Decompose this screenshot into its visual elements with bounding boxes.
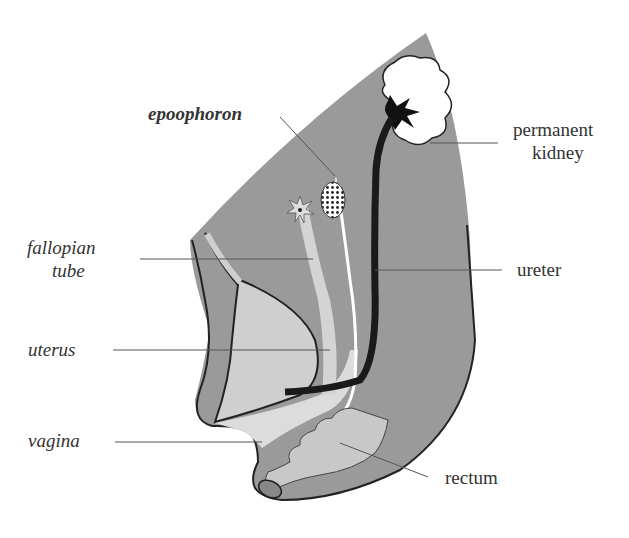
label-epoophoron: epoophoron	[148, 103, 242, 124]
label-vagina: vagina	[28, 430, 80, 451]
label-ureter: ureter	[517, 259, 562, 280]
label-permanent-kidney-2: kidney	[532, 142, 584, 163]
epoophoron-shape	[321, 182, 345, 218]
label-permanent-kidney-1: permanent	[513, 119, 594, 140]
label-fallopian-tube-1: fallopian	[27, 237, 96, 258]
label-rectum: rectum	[445, 467, 498, 488]
label-uterus: uterus	[28, 339, 76, 360]
female-urogenital-diagram: epoophoron permanent kidney fallopian tu…	[0, 0, 629, 538]
label-fallopian-tube-2: tube	[52, 260, 85, 281]
